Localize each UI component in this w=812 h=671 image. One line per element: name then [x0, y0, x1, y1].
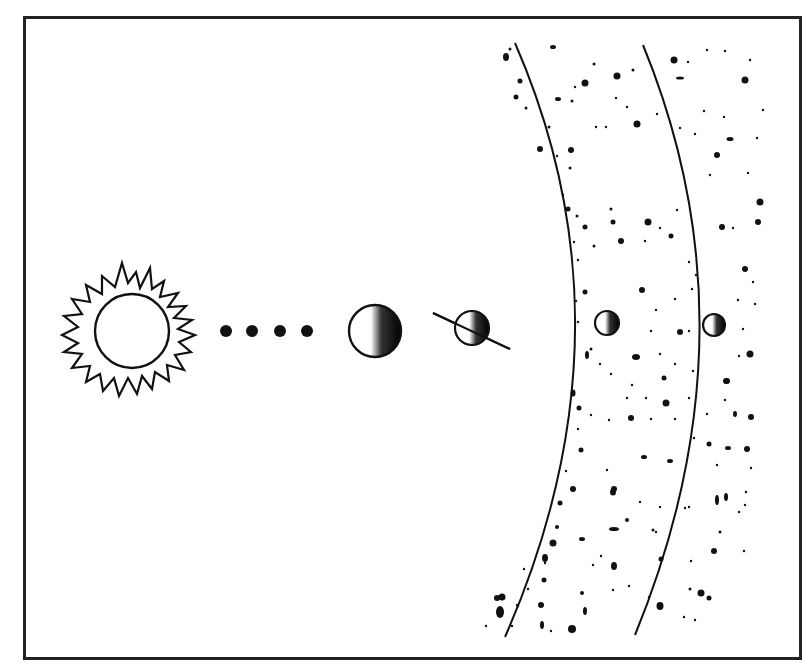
planet-icon: [349, 305, 401, 357]
moon-icon-inner: [595, 311, 619, 335]
moon-icon-outer: [703, 314, 725, 336]
diagram-canvas: [0, 0, 812, 671]
